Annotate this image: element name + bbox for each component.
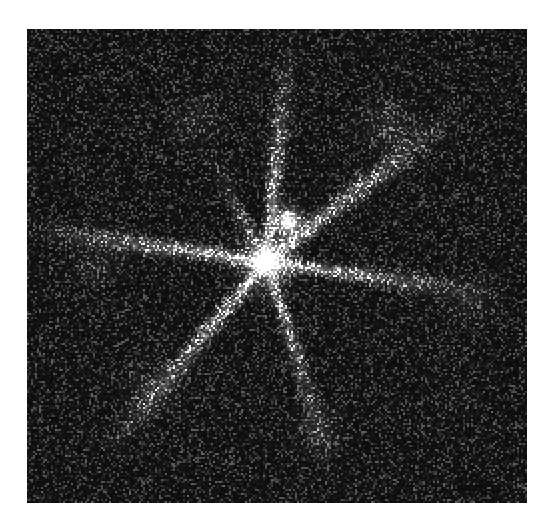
- sky-image-canvas: [27, 29, 527, 503]
- figure-root: [0, 0, 552, 528]
- sky-image-panel: [27, 29, 527, 503]
